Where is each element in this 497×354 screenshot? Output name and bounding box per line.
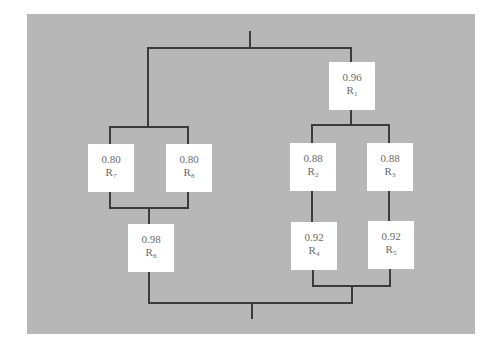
component-label: R3 — [385, 165, 396, 182]
component-label: R5 — [386, 243, 397, 260]
reliability-value: 0.88 — [380, 152, 399, 165]
component-r2: 0.88 R2 — [290, 143, 336, 191]
reliability-value: 0.92 — [381, 230, 400, 243]
component-label: R2 — [308, 165, 319, 182]
component-r1: 0.96 R1 — [329, 62, 375, 110]
component-label: R8 — [184, 166, 195, 183]
component-r7: 0.80 R7 — [88, 144, 134, 192]
component-r8: 0.80 R8 — [166, 144, 212, 192]
reliability-value: 0.98 — [141, 233, 160, 246]
component-label: R1 — [347, 84, 358, 101]
reliability-value: 0.80 — [179, 153, 198, 166]
component-r6: 0.98 R6 — [128, 224, 174, 272]
reliability-value: 0.88 — [303, 152, 322, 165]
component-label: R6 — [146, 246, 157, 263]
component-r5: 0.92 R5 — [368, 221, 414, 269]
component-r4: 0.92 R4 — [291, 222, 337, 270]
component-r3: 0.88 R3 — [367, 143, 413, 191]
reliability-value: 0.80 — [101, 153, 120, 166]
component-label: R4 — [309, 244, 320, 261]
component-label: R7 — [106, 166, 117, 183]
reliability-value: 0.92 — [304, 231, 323, 244]
reliability-value: 0.96 — [342, 71, 361, 84]
connection-lines — [0, 0, 497, 354]
